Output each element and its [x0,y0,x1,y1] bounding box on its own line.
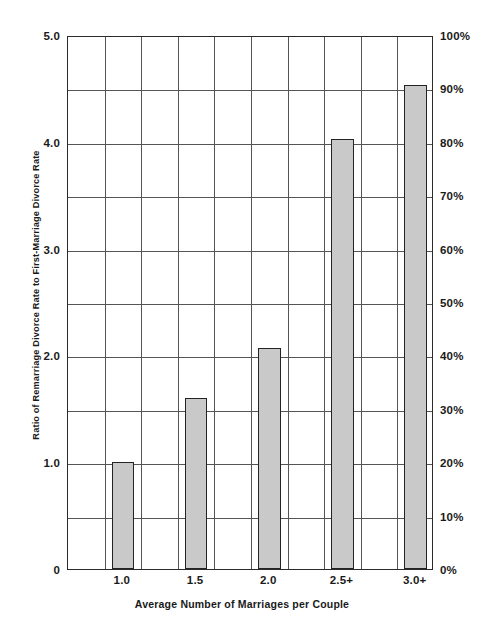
y-tick-label-right: 70% [440,190,484,202]
bar [258,348,281,569]
plot-area [67,36,433,570]
y-tick-label-right: 60% [440,244,484,256]
gridline-horizontal [68,357,432,358]
gridline-vertical [105,37,106,569]
y-tick-label-right: 0% [440,564,484,576]
y-tick-label-right: 90% [440,83,484,95]
y-axis-title: Ratio of Remarriage Divorce Rate to Firs… [31,145,41,445]
gridline-vertical [288,37,289,569]
gridline-vertical [251,37,252,569]
y-tick-label-right: 20% [440,457,484,469]
bar [185,398,208,569]
y-tick-label-right: 80% [440,137,484,149]
y-tick-label-right: 50% [440,297,484,309]
gridline-vertical [214,37,215,569]
chart-figure: 5.04.03.02.01.00 100%90%80%70%60%50%40%3… [0,0,484,618]
gridline-horizontal [68,90,432,91]
y-tick-label-left: 1.0 [8,457,60,469]
gridline-horizontal [68,251,432,252]
y-tick-label-right: 10% [440,511,484,523]
x-tick-label: 1.0 [92,574,152,586]
bar [404,85,427,569]
y-tick-label-left: 5.0 [8,30,60,42]
gridline-horizontal [68,144,432,145]
y-tick-label-right: 30% [440,404,484,416]
bar [112,462,135,569]
gridline-vertical [397,37,398,569]
x-axis-title: Average Number of Marriages per Couple [0,598,484,610]
gridline-vertical [141,37,142,569]
y-tick-label-right: 40% [440,350,484,362]
gridline-horizontal [68,411,432,412]
bar [331,139,354,569]
x-tick-label: 2.0 [238,574,298,586]
y-tick-label-right: 100% [440,30,484,42]
x-tick-label: 2.5+ [312,574,372,586]
x-tick-label: 1.5 [165,574,225,586]
y-tick-label-left: 0 [8,564,60,576]
x-tick-label: 3.0+ [385,574,445,586]
gridline-horizontal [68,197,432,198]
gridline-vertical [178,37,179,569]
gridline-vertical [361,37,362,569]
gridline-vertical [324,37,325,569]
gridline-horizontal [68,304,432,305]
